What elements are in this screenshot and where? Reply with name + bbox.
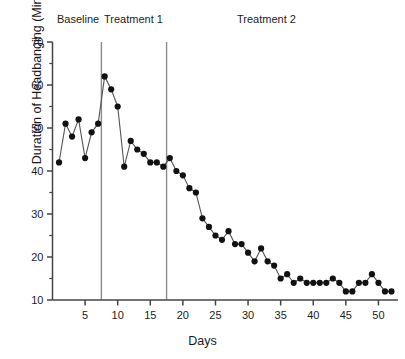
data-point	[336, 280, 342, 286]
data-point	[75, 116, 81, 122]
data-point	[304, 280, 310, 286]
data-point	[134, 146, 140, 152]
data-point	[160, 164, 166, 170]
data-point	[251, 258, 257, 264]
data-point	[297, 275, 303, 281]
data-point	[102, 73, 108, 79]
data-point	[82, 155, 88, 161]
svg-text:50: 50	[372, 309, 384, 321]
data-point	[186, 185, 192, 191]
data-point	[62, 121, 68, 127]
data-point	[362, 280, 368, 286]
data-point	[245, 250, 251, 256]
data-point	[291, 280, 297, 286]
data-point	[108, 86, 114, 92]
data-point	[232, 241, 238, 247]
data-point	[310, 280, 316, 286]
chart-figure: Baseline Treatment 1 Treatment 2 Duratio…	[0, 0, 405, 359]
data-point	[388, 288, 394, 294]
data-point	[167, 155, 173, 161]
svg-text:35: 35	[275, 309, 287, 321]
y-tick-group: 10203040506070	[31, 36, 52, 306]
data-point	[115, 103, 121, 109]
svg-text:45: 45	[340, 309, 352, 321]
data-point	[356, 280, 362, 286]
x-tick-group: 5101520253035404550	[82, 300, 385, 321]
data-point	[154, 159, 160, 165]
data-point	[284, 271, 290, 277]
svg-text:20: 20	[177, 309, 189, 321]
data-point	[95, 121, 101, 127]
svg-text:30: 30	[242, 309, 254, 321]
data-point	[317, 280, 323, 286]
svg-text:40: 40	[31, 165, 43, 177]
svg-text:20: 20	[31, 251, 43, 263]
svg-text:60: 60	[31, 79, 43, 91]
data-point	[89, 129, 95, 135]
data-point-group	[56, 73, 395, 294]
data-line-group	[59, 76, 391, 291]
phase-divider-group	[101, 42, 166, 300]
data-point	[141, 151, 147, 157]
data-point	[349, 288, 355, 294]
svg-text:25: 25	[209, 309, 221, 321]
svg-text:30: 30	[31, 208, 43, 220]
data-point	[238, 241, 244, 247]
data-point	[271, 263, 277, 269]
data-point	[193, 189, 199, 195]
data-point	[147, 159, 153, 165]
data-point	[323, 280, 329, 286]
data-point	[180, 172, 186, 178]
data-point	[173, 168, 179, 174]
plot-area: 10203040506070 5101520253035404550	[0, 0, 405, 359]
svg-text:70: 70	[31, 36, 43, 48]
data-point	[212, 232, 218, 238]
svg-text:50: 50	[31, 122, 43, 134]
data-point	[265, 258, 271, 264]
data-point	[128, 138, 134, 144]
svg-text:40: 40	[307, 309, 319, 321]
data-point	[330, 275, 336, 281]
data-point	[219, 237, 225, 243]
data-point	[56, 159, 62, 165]
data-point	[199, 215, 205, 221]
data-point	[206, 224, 212, 230]
svg-text:10: 10	[31, 294, 43, 306]
data-point	[382, 288, 388, 294]
svg-text:5: 5	[82, 309, 88, 321]
data-point	[121, 164, 127, 170]
svg-text:10: 10	[112, 309, 124, 321]
data-point	[369, 271, 375, 277]
data-point	[278, 275, 284, 281]
data-point	[225, 228, 231, 234]
data-point	[343, 288, 349, 294]
data-point	[69, 134, 75, 140]
svg-text:15: 15	[144, 309, 156, 321]
data-point	[258, 245, 264, 251]
data-point	[375, 280, 381, 286]
